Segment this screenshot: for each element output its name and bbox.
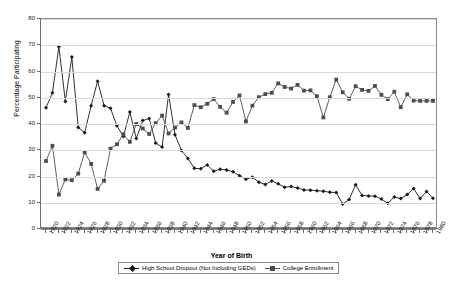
x-tick-mark-1926 xyxy=(84,229,85,233)
y-tick-label-20: 20 xyxy=(13,173,35,179)
x-tick-mark-1921 xyxy=(51,229,52,232)
legend-item-college[interactable]: College Enrollment xyxy=(265,265,334,271)
x-tick-mark-1940 xyxy=(174,229,175,233)
x-tick-mark-1965 xyxy=(335,229,336,232)
gridlines xyxy=(41,19,436,227)
x-tick-mark-1980 xyxy=(432,229,433,233)
y-tick-mark-30 xyxy=(37,149,40,150)
x-axis-title: Year of Birth xyxy=(0,252,463,259)
x-tick-mark-1953 xyxy=(258,229,259,232)
y-tick-mark-50 xyxy=(37,97,40,98)
x-tick-mark-1946 xyxy=(213,229,214,233)
x-tick-mark-1923 xyxy=(64,229,65,232)
y-tick-mark-40 xyxy=(37,123,40,124)
x-tick-mark-1951 xyxy=(245,229,246,232)
x-tick-mark-1978 xyxy=(419,229,420,233)
x-tick-mark-1974 xyxy=(393,229,394,233)
x-tick-mark-1964 xyxy=(329,229,330,233)
x-tick-mark-1941 xyxy=(180,229,181,232)
x-tick-mark-1977 xyxy=(413,229,414,232)
x-tick-mark-1976 xyxy=(406,229,407,233)
x-tick-mark-1922 xyxy=(58,229,59,233)
legend-item-dropout[interactable]: High School Dropout (Not Including GEDs) xyxy=(124,265,256,271)
x-tick-mark-1944 xyxy=(200,229,201,233)
gridline-30 xyxy=(41,150,436,151)
x-tick-mark-1956 xyxy=(277,229,278,233)
x-tick-mark-1960 xyxy=(303,229,304,233)
y-tick-mark-70 xyxy=(37,44,40,45)
gridline-10 xyxy=(41,203,436,204)
x-tick-mark-1947 xyxy=(219,229,220,232)
x-tick-mark-1938 xyxy=(161,229,162,233)
x-tick-mark-1950 xyxy=(239,229,240,233)
y-tick-label-0: 0 xyxy=(13,225,35,231)
x-tick-mark-1962 xyxy=(316,229,317,233)
x-tick-mark-1942 xyxy=(187,229,188,233)
x-tick-mark-1957 xyxy=(284,229,285,232)
x-tick-mark-1931 xyxy=(116,229,117,232)
x-tick-mark-1928 xyxy=(97,229,98,233)
x-tick-mark-1971 xyxy=(374,229,375,232)
x-tick-mark-1970 xyxy=(368,229,369,233)
x-tick-mark-1959 xyxy=(297,229,298,232)
diamond-marker-icon xyxy=(124,265,139,271)
x-tick-mark-1920 xyxy=(45,229,46,233)
x-tick-mark-1955 xyxy=(271,229,272,232)
y-tick-label-10: 10 xyxy=(13,199,35,205)
x-tick-mark-1937 xyxy=(155,229,156,232)
x-tick-mark-1934 xyxy=(135,229,136,233)
x-tick-mark-1933 xyxy=(129,229,130,232)
x-tick-mark-1961 xyxy=(309,229,310,232)
x-tick-mark-1943 xyxy=(193,229,194,232)
x-tick-mark-1948 xyxy=(226,229,227,233)
gridline-80 xyxy=(41,19,436,20)
plot-area xyxy=(40,18,437,228)
y-tick-label-30: 30 xyxy=(13,146,35,152)
y-tick-mark-10 xyxy=(37,202,40,203)
x-tick-mark-1975 xyxy=(400,229,401,232)
gridline-20 xyxy=(41,177,436,178)
x-tick-mark-1945 xyxy=(206,229,207,232)
x-tick-mark-1924 xyxy=(71,229,72,233)
x-tick-mark-1930 xyxy=(110,229,111,233)
x-tick-mark-1972 xyxy=(380,229,381,233)
gridline-40 xyxy=(41,124,436,125)
x-tick-mark-1954 xyxy=(264,229,265,233)
chart-legend: High School Dropout (Not Including GEDs)… xyxy=(118,262,339,274)
x-tick-mark-1927 xyxy=(90,229,91,232)
x-tick-mark-1963 xyxy=(322,229,323,232)
y-tick-mark-60 xyxy=(37,71,40,72)
y-tick-mark-0 xyxy=(37,228,40,229)
gridline-70 xyxy=(41,45,436,46)
legend-label-college: College Enrollment xyxy=(283,265,334,271)
x-tick-mark-1925 xyxy=(77,229,78,232)
x-tick-mark-1967 xyxy=(348,229,349,232)
x-tick-mark-1949 xyxy=(232,229,233,232)
y-axis-line xyxy=(40,18,41,229)
x-tick-mark-1968 xyxy=(355,229,356,233)
x-tick-mark-1969 xyxy=(361,229,362,232)
x-tick-mark-1966 xyxy=(342,229,343,233)
x-tick-mark-1929 xyxy=(103,229,104,232)
chart-container: 01020304050607080 1920192219241926192819… xyxy=(0,0,463,289)
y-tick-mark-80 xyxy=(37,18,40,19)
x-tick-mark-1932 xyxy=(122,229,123,233)
legend-label-dropout: High School Dropout (Not Including GEDs) xyxy=(142,265,256,271)
x-tick-mark-1973 xyxy=(387,229,388,232)
y-axis-title: Percentage Participating xyxy=(13,19,20,139)
x-tick-mark-1935 xyxy=(142,229,143,232)
gridline-50 xyxy=(41,98,436,99)
y-tick-mark-20 xyxy=(37,176,40,177)
x-tick-mark-1979 xyxy=(426,229,427,232)
x-tick-mark-1958 xyxy=(290,229,291,233)
x-tick-mark-1952 xyxy=(251,229,252,233)
gridline-60 xyxy=(41,72,436,73)
square-marker-icon xyxy=(265,265,280,271)
x-tick-mark-1939 xyxy=(168,229,169,232)
x-tick-mark-1936 xyxy=(148,229,149,233)
